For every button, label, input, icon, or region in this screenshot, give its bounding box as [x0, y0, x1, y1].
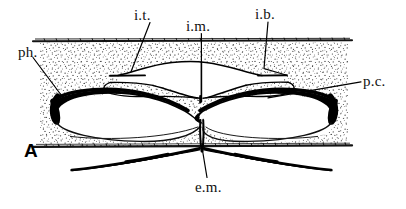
label-im: i.m. — [186, 19, 210, 34]
leader-em — [203, 151, 207, 178]
label-ph: ph. — [18, 45, 37, 60]
label-pc: p.c. — [363, 74, 385, 89]
label-em: e.m. — [195, 180, 222, 195]
label-it: i.t. — [134, 8, 151, 23]
top-border-line — [33, 38, 352, 42]
panel-letter: A — [24, 141, 38, 160]
label-ib: i.b. — [255, 7, 275, 22]
figure-panel-a: i.t. i.m. i.b. ph. p.c. e.m. A — [0, 0, 406, 209]
